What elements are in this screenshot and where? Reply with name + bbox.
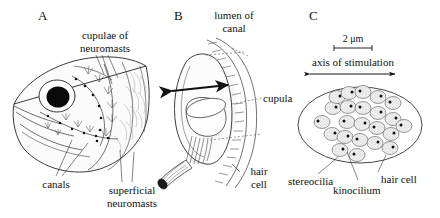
hair-cell (355, 102, 371, 115)
hair-cell (337, 131, 353, 144)
scale-bar (334, 45, 372, 51)
panel-letter-c: C (309, 8, 318, 24)
hair-cell (383, 128, 399, 141)
label-stereocilia: stereocilia (288, 175, 333, 188)
hair-cell (370, 107, 386, 120)
hair-cell (332, 144, 348, 157)
hair-cell (341, 87, 357, 100)
hair-cell (354, 118, 370, 131)
scale-bar-label: 2 μm (328, 33, 378, 44)
hair-cell (349, 149, 365, 162)
lateral-line-figure: A cupulae of neuromasts canals superfici… (0, 0, 440, 218)
label-lumen-line-2: canal (199, 22, 269, 35)
nerve-fiber-bundle (156, 160, 192, 191)
label-cupula: cupula (263, 92, 292, 105)
label-hair-cell-b-line-1: hair (237, 165, 281, 178)
hair-cell (352, 134, 368, 147)
hair-cell (355, 86, 371, 99)
hair-cell (314, 116, 330, 129)
hair-cell (396, 120, 412, 133)
hair-cell (370, 91, 386, 104)
hair-cell (385, 97, 401, 110)
hair-cell (340, 101, 356, 114)
fish-head-group (13, 55, 150, 182)
hair-cell (382, 142, 398, 155)
label-hair-cell-b-line-2: cell (237, 178, 281, 191)
label-lumen-line-1: lumen of (199, 9, 269, 22)
label-axis-of-stimulation: axis of stimulation (303, 56, 403, 69)
label-hair-cell-b: hair cell (237, 165, 281, 190)
panel-letter-b: B (174, 8, 183, 24)
leader-cupula (232, 98, 262, 104)
hair-cell (339, 116, 355, 129)
label-hair-cell-c: hair cell (381, 173, 417, 186)
hair-cell (367, 137, 383, 150)
hair-cell (369, 122, 385, 135)
leader-stereocilia (318, 157, 338, 174)
label-lumen-of-canal: lumen of canal (199, 9, 269, 34)
fish-eye-pupil (47, 87, 70, 108)
label-kinocilium: kinocilium (333, 184, 381, 197)
